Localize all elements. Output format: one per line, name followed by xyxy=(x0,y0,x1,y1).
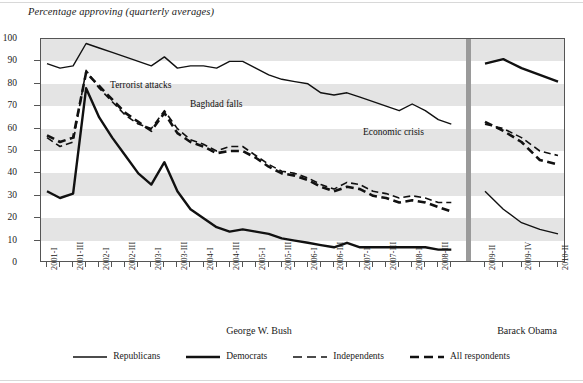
x-tick-label: 2003-I xyxy=(154,247,163,270)
x-tick xyxy=(124,262,125,267)
x-tick-label: 2001-I xyxy=(50,247,59,270)
x-tick xyxy=(229,262,230,267)
series-all-respondents-obama xyxy=(485,122,558,164)
chart-title: Percentage approving (quarterly averages… xyxy=(28,6,214,17)
y-tick xyxy=(34,128,40,129)
x-tick xyxy=(176,262,177,267)
legend-label: Republicans xyxy=(113,352,160,362)
top-rule xyxy=(0,2,583,3)
y-tick-label: 70 xyxy=(0,100,17,110)
y-tick-label: 80 xyxy=(0,78,17,88)
x-tick-label: 2008-III xyxy=(441,242,450,270)
y-tick xyxy=(34,83,40,84)
y-tick-label: 90 xyxy=(0,55,17,65)
x-tick xyxy=(281,262,282,267)
x-tick-label: 2001-III xyxy=(76,242,85,270)
x-tick-label: 2007-I xyxy=(363,247,372,270)
y-tick-label: 0 xyxy=(0,257,17,267)
legend-swatch xyxy=(186,353,220,361)
legend-label: Independents xyxy=(333,352,384,362)
x-tick xyxy=(268,262,269,267)
series-democrats-obama xyxy=(485,59,558,81)
x-tick-label: 2002-III xyxy=(128,242,137,270)
plot-frame xyxy=(40,38,565,262)
annotation-economic-crisis: Economic crisis xyxy=(363,127,424,137)
plot-area xyxy=(40,38,565,262)
legend-item-republicans: Republicans xyxy=(73,352,160,362)
y-tick xyxy=(34,217,40,218)
x-tick xyxy=(372,262,373,267)
x-tick-label: 2010-II xyxy=(561,245,570,270)
x-tick xyxy=(557,262,558,267)
x-tick-label: 2003-III xyxy=(180,242,189,270)
y-tick-label: 20 xyxy=(0,212,17,222)
x-tick-label: 2006-I xyxy=(310,247,319,270)
x-tick xyxy=(307,262,308,267)
x-tick xyxy=(242,262,243,267)
x-tick-label: 2007-III xyxy=(389,242,398,270)
x-tick xyxy=(150,262,151,267)
x-tick xyxy=(398,262,399,267)
x-tick-label: 2006-III xyxy=(336,242,345,270)
y-tick-label: 10 xyxy=(0,235,17,245)
x-tick xyxy=(72,262,73,267)
series-independents-obama xyxy=(485,124,558,155)
x-tick xyxy=(502,262,503,267)
x-tick xyxy=(450,262,451,267)
x-tick-label: 2009-IV xyxy=(524,241,533,270)
x-tick-label: 2009-II xyxy=(488,245,497,270)
x-tick xyxy=(437,262,438,267)
annotation-terrorist-attacks: Terrorist attacks xyxy=(110,80,171,90)
x-tick-label: 2004-I xyxy=(206,247,215,270)
y-tick xyxy=(34,150,40,151)
y-tick-label: 30 xyxy=(0,190,17,200)
y-tick-label: 100 xyxy=(0,33,17,43)
x-tick xyxy=(216,262,217,267)
x-tick xyxy=(98,262,99,267)
y-tick-label: 60 xyxy=(0,123,17,133)
legend-item-democrats: Democrats xyxy=(186,352,267,362)
series-all-respondents-bush xyxy=(47,73,451,212)
president-label: Barack Obama xyxy=(497,325,557,336)
x-tick xyxy=(46,262,47,267)
x-tick xyxy=(294,262,295,267)
x-tick xyxy=(521,262,522,267)
series-republicans-bush xyxy=(47,44,451,125)
president-label: George W. Bush xyxy=(226,325,292,336)
y-tick xyxy=(34,172,40,173)
y-tick xyxy=(34,105,40,106)
x-tick xyxy=(163,262,164,267)
x-tick xyxy=(359,262,360,267)
series-layer xyxy=(41,39,565,262)
x-tick xyxy=(189,262,190,267)
chart-root: Percentage approving (quarterly averages… xyxy=(0,0,583,383)
x-tick xyxy=(59,262,60,267)
x-tick xyxy=(346,262,347,267)
legend-label: Democrats xyxy=(226,352,267,362)
x-tick xyxy=(385,262,386,267)
legend-item-all-respondents: All respondents xyxy=(410,352,510,362)
x-tick xyxy=(85,262,86,267)
chart-legend: RepublicansDemocratsIndependentsAll resp… xyxy=(0,352,583,362)
x-tick xyxy=(137,262,138,267)
y-tick xyxy=(34,60,40,61)
x-tick-label: 2004-III xyxy=(232,242,241,270)
legend-label: All respondents xyxy=(450,352,510,362)
legend-swatch xyxy=(293,353,327,361)
x-tick xyxy=(203,262,204,267)
legend-swatch xyxy=(410,353,444,361)
x-tick xyxy=(539,262,540,267)
x-tick xyxy=(484,262,485,267)
y-tick xyxy=(34,195,40,196)
legend-item-independents: Independents xyxy=(293,352,384,362)
y-tick-label: 40 xyxy=(0,167,17,177)
y-tick-label: 50 xyxy=(0,145,17,155)
series-republicans-obama xyxy=(485,191,558,234)
x-tick xyxy=(111,262,112,267)
x-tick xyxy=(320,262,321,267)
x-tick xyxy=(411,262,412,267)
x-tick-label: 2008-I xyxy=(415,247,424,270)
annotation-baghdad-falls: Baghdad falls xyxy=(190,99,243,109)
series-democrats-bush xyxy=(47,88,451,249)
x-tick xyxy=(255,262,256,267)
